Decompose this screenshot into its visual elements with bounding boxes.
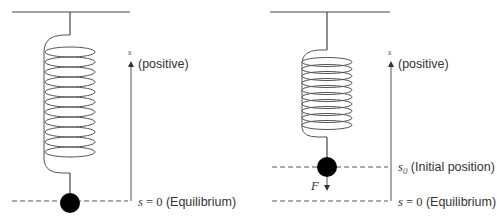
spring-coil: [44, 35, 95, 173]
spring-coil: [302, 50, 352, 137]
mass-ball: [317, 157, 337, 177]
spring-mass-diagram: s (positive) s = 0 (Equilibrium) F: [0, 0, 497, 220]
positive-direction-label: (positive): [138, 57, 189, 71]
s-axis-label: s: [128, 47, 132, 57]
force-label: F: [310, 179, 319, 193]
equilibrium-label: s = 0 (Equilibrium): [138, 195, 236, 209]
initial-position-label: s0 (Initial position): [398, 160, 495, 176]
equilibrium-label: s = 0 (Equilibrium): [398, 195, 496, 209]
left-panel: s (positive) s = 0 (Equilibrium): [12, 12, 236, 213]
right-panel: F s (positive) s0 (Initial position) s =…: [270, 12, 496, 209]
mass-ball: [60, 193, 80, 213]
positive-direction-label: (positive): [398, 57, 449, 71]
s-axis-label: s: [388, 47, 392, 57]
